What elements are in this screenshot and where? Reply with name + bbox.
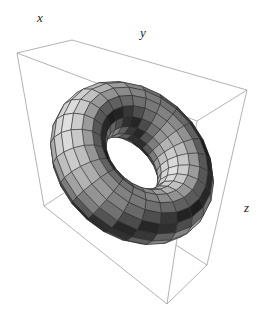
- z-axis-label: z: [244, 200, 249, 216]
- plot-canvas: [0, 0, 266, 322]
- y-axis-label: y: [140, 25, 146, 41]
- torus-surface: [51, 82, 214, 245]
- x-axis-label: x: [37, 10, 43, 26]
- bounding-box-back: [17, 40, 247, 304]
- torus-plot: x y z: [0, 0, 266, 322]
